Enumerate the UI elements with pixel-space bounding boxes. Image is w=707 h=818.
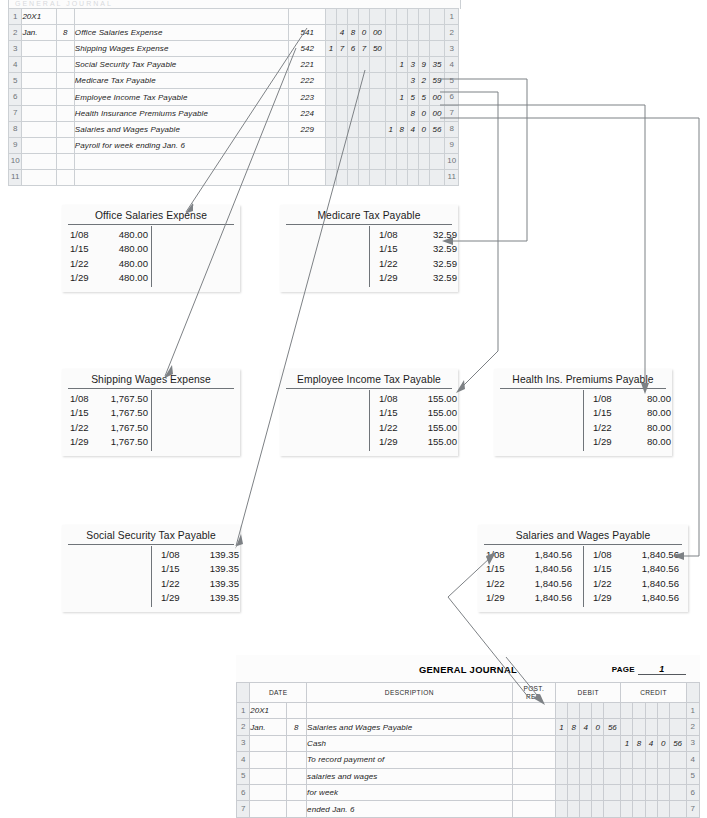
post-ref-cell bbox=[512, 752, 556, 768]
description-cell bbox=[74, 153, 289, 169]
row-number-right: 8 bbox=[445, 121, 459, 137]
row-number: 7 bbox=[237, 801, 250, 817]
t-entry-amount: 32.59 bbox=[409, 228, 457, 242]
row-number-right: 9 bbox=[445, 137, 459, 153]
payroll-journal-row: 6Employee Income Tax Payable223155006 bbox=[9, 89, 459, 105]
amount-cell bbox=[385, 153, 396, 169]
t-entry-date: 1/29 bbox=[379, 435, 409, 449]
amount-cell bbox=[358, 105, 369, 121]
amount-cell-cents bbox=[369, 121, 385, 137]
description-cell: Social Security Tax Payable bbox=[74, 57, 289, 73]
header-post-ref-line1: POST. bbox=[513, 685, 556, 693]
t-entry-date: 1/15 bbox=[70, 242, 100, 256]
t-entry-date: 1/08 bbox=[70, 228, 100, 242]
row-number-right: 4 bbox=[686, 752, 699, 768]
post-ref-cell: 542 bbox=[289, 41, 326, 57]
date-month bbox=[250, 735, 286, 751]
t-entry-amount: 1,840.56 bbox=[623, 562, 679, 576]
row-number: 5 bbox=[9, 73, 22, 89]
date-day: 8 bbox=[286, 719, 307, 735]
amount-cell bbox=[621, 703, 633, 719]
row-number: 2 bbox=[237, 719, 250, 735]
amount-cell bbox=[657, 752, 669, 768]
amount-cell-cents bbox=[369, 153, 385, 169]
t-side-left: 1/081,840.561/151,840.561/221,840.561/29… bbox=[478, 548, 583, 606]
t-entry-amount: 1,840.56 bbox=[623, 577, 679, 591]
t-entry-amount: 155.00 bbox=[409, 435, 457, 449]
description-cell: salaries and wages bbox=[307, 768, 512, 784]
row-number: 5 bbox=[237, 768, 250, 784]
amount-cell bbox=[358, 153, 369, 169]
t-entry-amount: 1,767.50 bbox=[100, 406, 148, 420]
date-day bbox=[286, 768, 307, 784]
row-number: 1 bbox=[9, 9, 22, 25]
t-entry-date: 1/29 bbox=[70, 271, 100, 285]
t-entry-amount: 155.00 bbox=[409, 421, 457, 435]
date-day bbox=[56, 137, 74, 153]
date-month bbox=[22, 41, 56, 57]
t-entry-amount: 1,767.50 bbox=[100, 435, 148, 449]
t-entry: 1/151,840.56 bbox=[486, 562, 583, 576]
amount-cell: 6 bbox=[347, 41, 358, 57]
amount-cell bbox=[657, 801, 669, 817]
t-entry-amount: 155.00 bbox=[409, 406, 457, 420]
connector-health-ins-premiums-payable bbox=[440, 105, 649, 394]
amount-cell bbox=[326, 73, 337, 89]
general-journal-row: 7ended Jan. 67 bbox=[237, 801, 700, 817]
amount-cell bbox=[621, 801, 633, 817]
t-entry-amount: 80.00 bbox=[623, 406, 671, 420]
amount-cell bbox=[385, 41, 396, 57]
t-entry-date: 1/22 bbox=[161, 577, 191, 591]
date-month bbox=[250, 752, 286, 768]
amount-cell bbox=[556, 801, 568, 817]
t-entry-date: 1/15 bbox=[486, 562, 516, 576]
payroll-journal-row: 8Salaries and Wages Payable2291840568 bbox=[9, 121, 459, 137]
t-entry: 1/1532.59 bbox=[379, 242, 458, 256]
t-entry-date: 1/22 bbox=[593, 577, 623, 591]
general-journal-row: 6for week6 bbox=[237, 784, 700, 800]
t-entry: 1/2932.59 bbox=[379, 271, 458, 285]
t-side-right: 1/081,840.561/151,840.561/221,840.561/29… bbox=[583, 548, 688, 606]
amount-cell bbox=[645, 801, 657, 817]
description-cell bbox=[74, 169, 289, 185]
amount-cell-cents bbox=[429, 25, 445, 41]
amount-cell bbox=[657, 719, 669, 735]
row-number-right: 1 bbox=[686, 703, 699, 719]
general-journal-title-row: GENERAL JOURNAL PAGE1 bbox=[236, 655, 700, 682]
amount-cell bbox=[358, 121, 369, 137]
amount-cell bbox=[580, 768, 592, 784]
t-account-body: 1/0880.001/1580.001/2280.001/2980.00 bbox=[494, 389, 672, 456]
amount-cell-cents bbox=[669, 703, 686, 719]
post-ref-cell bbox=[512, 801, 556, 817]
amount-cell: 8 bbox=[568, 719, 580, 735]
amount-cell bbox=[337, 89, 348, 105]
t-entry-amount: 32.59 bbox=[409, 257, 457, 271]
amount-cell bbox=[337, 121, 348, 137]
row-number-right: 3 bbox=[686, 735, 699, 751]
t-account-body: 1/08155.001/15155.001/22155.001/29155.00 bbox=[280, 389, 458, 456]
amount-cell bbox=[645, 752, 657, 768]
t-account-title: Shipping Wages Expense bbox=[62, 369, 240, 388]
t-side-right: 1/0832.591/1532.591/2232.591/2932.59 bbox=[369, 228, 458, 286]
t-entry: 1/081,767.50 bbox=[70, 392, 151, 406]
date-day bbox=[56, 9, 74, 25]
amount-cell-cents bbox=[429, 169, 445, 185]
row-number: 7 bbox=[9, 105, 22, 121]
payroll-journal-row: 5Medicare Tax Payable22232595 bbox=[9, 73, 459, 89]
t-account-divider bbox=[369, 390, 370, 451]
date-day bbox=[56, 73, 74, 89]
page-label: PAGE bbox=[612, 665, 635, 674]
date-month bbox=[22, 153, 56, 169]
amount-cell-cents: 50 bbox=[369, 41, 385, 57]
amount-cell-cents bbox=[669, 801, 686, 817]
description-cell: Employee Income Tax Payable bbox=[74, 89, 289, 105]
amount-cell bbox=[396, 153, 407, 169]
amount-cell bbox=[396, 169, 407, 185]
t-account-divider bbox=[151, 226, 152, 287]
t-entry-date: 1/15 bbox=[161, 562, 191, 576]
t-side-right: 1/0880.001/1580.001/2280.001/2980.00 bbox=[583, 392, 672, 450]
date-month bbox=[22, 137, 56, 153]
t-entry-amount: 480.00 bbox=[100, 257, 148, 271]
amount-cell bbox=[418, 25, 429, 41]
t-entry-date: 1/29 bbox=[70, 435, 100, 449]
